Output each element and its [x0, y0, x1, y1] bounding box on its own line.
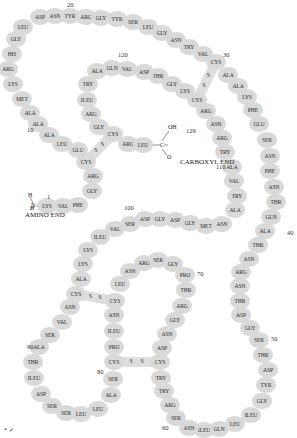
residue-ileu-88: ILEU [24, 370, 44, 386]
residue-phe-3: PHE [68, 197, 88, 213]
position-number: 10 [27, 126, 34, 133]
carboxyl-end-label: CARBOXYL END [180, 158, 234, 166]
residue-val-109: VAL [224, 173, 244, 189]
residue-ser-50: SER [249, 332, 269, 348]
residue-cys-94: CYS [66, 286, 86, 302]
residue-lys-13: LYS [3, 76, 23, 92]
residue-try-108: TRY [227, 188, 247, 204]
residue-arg-61: ARG [160, 397, 180, 413]
residue-ala-11: ALA [20, 105, 40, 121]
residue-thr-89: THR [23, 354, 43, 370]
residue-arg-112: ARG [212, 130, 232, 146]
position-number: 90 [27, 343, 34, 350]
residue-arg-5: ARG [83, 168, 103, 184]
residue-ala-82: ALA [101, 387, 121, 403]
position-number: 20 [67, 1, 74, 8]
residue-gly-4: GLY [82, 183, 102, 199]
residue-asp-87: ASP [31, 386, 51, 402]
residue-asn-106: ASN [212, 216, 232, 232]
position-number: 100 [124, 204, 134, 211]
residue-asp-119: ASP [134, 64, 154, 80]
residue-arg-68: ARG [172, 298, 192, 314]
residue-ser-36: SER [257, 132, 277, 148]
amino-end-label: AMINO END [25, 211, 65, 219]
position-number: 120 [118, 51, 128, 58]
position-number: 70 [197, 270, 204, 277]
amino-h-top: H [28, 192, 32, 198]
residue-asn-77: ASN [104, 307, 124, 323]
residue-lys-97: LYS [78, 242, 98, 258]
residue-cys-64: CYS [150, 354, 170, 370]
residue-ileu-78: ILEU [104, 323, 124, 339]
residue-asn-37: ASN [260, 148, 280, 164]
residue-ser-91: SER [40, 327, 60, 343]
residue-gly-67: GLY [165, 312, 185, 328]
residue-thr-51: THR [253, 347, 273, 363]
residue-leu-129: LEU [133, 137, 153, 153]
residue-leu-75: LEU [110, 276, 130, 292]
residue-leu-17: LEU [13, 19, 33, 35]
residue-lys-96: LYS [73, 256, 93, 272]
position-number: 60 [162, 424, 169, 431]
corner-mark: * ✓ [4, 426, 14, 433]
residue-asp-65: ASP [152, 340, 172, 356]
residue-leu-83: LEU [88, 401, 108, 417]
residue-gly-54: GLY [252, 393, 272, 409]
carboxyl-oh: OH [168, 124, 177, 130]
residue-glu-35: GLU [249, 116, 269, 132]
residue-ala-95: ALA [71, 271, 91, 287]
residue-his-15: HIS [2, 46, 22, 62]
residue-asn-39: ASN [264, 179, 284, 195]
residue-phe-38: PHE [260, 163, 280, 179]
residue-ser-81: SER [103, 371, 123, 387]
residue-ala-107: ALA [225, 202, 245, 218]
position-number: 80 [97, 368, 104, 375]
position-number: 40 [287, 229, 294, 236]
position-number: 30 [223, 51, 230, 58]
residue-cys-80: CYS [104, 354, 124, 370]
amino-n-atom: N [31, 202, 35, 208]
residue-asp-52: ASP [258, 362, 278, 378]
position-number: 1 [47, 193, 50, 200]
residue-thr-40: THR [266, 194, 286, 210]
residue-pro-79: PRO [104, 339, 124, 355]
carboxyl-o: O [167, 154, 171, 160]
position-number: 50 [271, 335, 278, 342]
residue-thr-69: THR [176, 282, 196, 298]
position-number: 129 [186, 127, 196, 134]
residue-try-63: TRY [151, 370, 171, 386]
carboxyl-c: C [160, 142, 164, 148]
residue-met-12: MET [12, 91, 32, 107]
residue-asn-66: ASN [157, 326, 177, 342]
residue-val-92: VAL [52, 314, 72, 330]
residue-try-123: TRY [78, 76, 98, 92]
residue-asn-46: ASN [230, 278, 250, 294]
residue-tyr-53: TYR [256, 377, 276, 393]
